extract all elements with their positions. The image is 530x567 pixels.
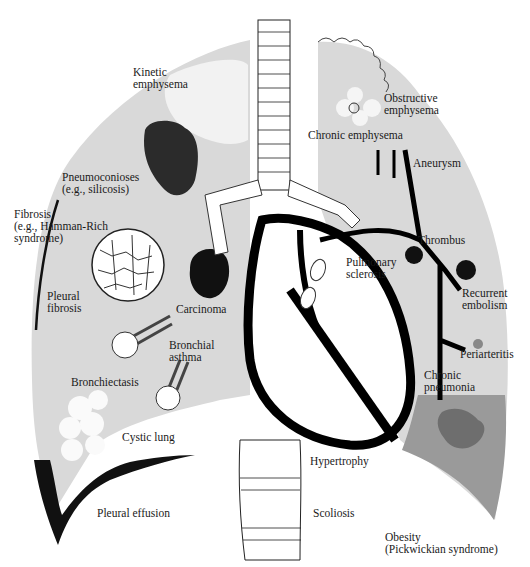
recurrent-embolism [456, 260, 476, 280]
label-chronic-emphysema: Chronic emphysema [308, 129, 403, 141]
spine [239, 440, 301, 560]
label-bronchial-asthma: Bronchial asthma [169, 339, 214, 363]
lung-heart-diagram [0, 0, 530, 567]
label-recurrent-embolism: Recurrent embolism [462, 287, 507, 311]
label-periarteritis: Periarteritis [460, 348, 514, 360]
label-thrombus: Thrombus [418, 234, 465, 246]
thrombus [405, 246, 423, 264]
label-obstructive-emphysema: Obstructive emphysema [384, 92, 439, 116]
label-chronic-pneumonia: Chronic pneumonia [424, 369, 475, 393]
label-kinetic-emphysema: Kinetic emphysema [133, 66, 188, 90]
label-fibrosis: Fibrosis (e.g., Hamman-Rich syndrome) [14, 208, 108, 244]
label-cystic-lung: Cystic lung [122, 431, 175, 443]
label-carcinoma: Carcinoma [176, 303, 226, 315]
label-pleural-fibrosis: Pleural fibrosis [47, 290, 82, 314]
label-scoliosis: Scoliosis [313, 507, 355, 519]
label-aneurysm: Aneurysm [413, 157, 461, 169]
label-bronchiectasis: Bronchiectasis [71, 376, 139, 388]
label-pleural-effusion: Pleural effusion [97, 507, 170, 519]
label-obesity: Obesity (Pickwickian syndrome) [385, 531, 498, 555]
label-pneumoconioses: Pneumoconioses (e.g., silicosis) [62, 171, 139, 195]
label-hypertrophy: Hypertrophy [310, 455, 369, 467]
label-pulmonary-sclerosis: Pulmonary sclerosis [346, 256, 396, 280]
trachea [258, 20, 290, 190]
